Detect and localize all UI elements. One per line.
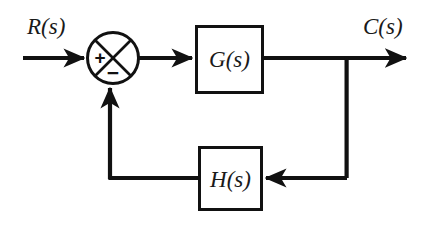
block-diagram-canvas: R(s) C(s) G(s) H(s) + − bbox=[0, 0, 428, 233]
plant-block-label: G(s) bbox=[196, 47, 263, 73]
input-signal-label: R(s) bbox=[27, 14, 65, 40]
output-signal-label: C(s) bbox=[363, 14, 403, 40]
feedback-block-label: H(s) bbox=[199, 167, 262, 193]
summing-junction-minus-sign: − bbox=[105, 62, 121, 83]
